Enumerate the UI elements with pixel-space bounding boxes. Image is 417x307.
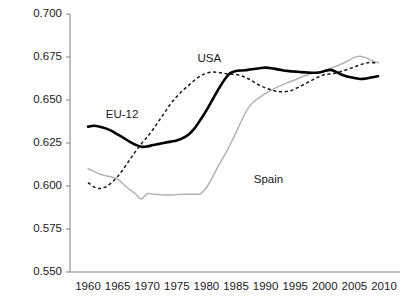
chart-container: 0.5500.5750.6000.6250.6500.6750.700 1960… — [0, 0, 417, 307]
series-label-spain: Spain — [254, 173, 283, 185]
line-chart: 0.5500.5750.6000.6250.6500.6750.700 1960… — [0, 0, 417, 307]
x-axis: 1960196519701975198019851990199520002005… — [70, 272, 400, 292]
x-tick-label: 1990 — [253, 280, 279, 292]
series-label-eu-12: EU-12 — [106, 108, 139, 120]
x-tick-label: 2000 — [312, 280, 338, 292]
y-tick-label: 0.550 — [33, 265, 62, 277]
x-tick-label: 2005 — [342, 280, 368, 292]
x-tick-label: 1960 — [75, 280, 101, 292]
x-tick-label: 1965 — [105, 280, 131, 292]
series-line-usa — [88, 62, 378, 188]
y-tick-label: 0.625 — [33, 136, 62, 148]
y-axis: 0.5500.5750.6000.6250.6500.6750.700 — [33, 7, 70, 277]
y-tick-label: 0.600 — [33, 179, 62, 191]
series-label-usa: USA — [198, 52, 222, 64]
y-tick-label: 0.700 — [33, 7, 62, 19]
x-tick-label: 1985 — [223, 280, 249, 292]
y-tick-label: 0.650 — [33, 93, 62, 105]
y-tick-label: 0.575 — [33, 222, 62, 234]
x-tick-label: 1980 — [194, 280, 220, 292]
x-tick-label: 1970 — [134, 280, 160, 292]
x-tick-label: 1975 — [164, 280, 190, 292]
x-tick-label: 2010 — [371, 280, 397, 292]
series-line-spain — [88, 56, 378, 199]
series-lines — [88, 56, 378, 199]
x-tick-label: 1995 — [282, 280, 308, 292]
series-annotations: EU-12USASpain — [106, 52, 283, 185]
y-tick-label: 0.675 — [33, 50, 62, 62]
